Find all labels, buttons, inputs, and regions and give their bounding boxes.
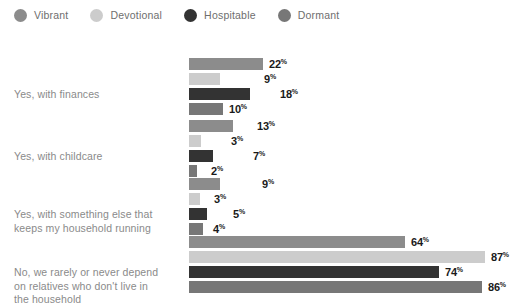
bar-value-label: 86% — [488, 281, 506, 294]
bar-value-label: 9% — [264, 73, 276, 86]
legend-item-label: Dormant — [298, 9, 340, 21]
bar-value-label: 74% — [445, 266, 463, 279]
circle-swatch-icon — [278, 9, 291, 22]
percent-sign: % — [292, 88, 298, 95]
bar-hospitable[interactable] — [189, 88, 250, 100]
percent-sign: % — [220, 193, 226, 200]
percent-sign: % — [268, 178, 274, 185]
percent-sign: % — [259, 150, 265, 157]
percent-sign: % — [217, 165, 223, 172]
bar-dormant[interactable] — [189, 165, 197, 177]
bar-value-label: 5% — [233, 208, 245, 221]
percent-sign: % — [269, 120, 275, 127]
category-label: Yes, with something else thatkeeps my ho… — [14, 208, 184, 235]
bar-hospitable[interactable] — [189, 150, 213, 162]
percent-sign: % — [237, 135, 243, 142]
bar-devotional[interactable] — [189, 251, 485, 263]
percent-sign: % — [457, 266, 463, 273]
bar-value-label: 87% — [491, 251, 509, 264]
bar-value-number: 10 — [229, 103, 241, 115]
bar-devotional[interactable] — [189, 135, 201, 147]
bar-value-label: 2% — [211, 165, 223, 178]
percent-sign: % — [270, 73, 276, 80]
circle-swatch-icon — [184, 9, 197, 22]
bar-hospitable[interactable] — [189, 208, 207, 220]
bar-value-number: 18 — [280, 88, 292, 100]
bar-value-label: 7% — [253, 150, 265, 163]
category-label-line: Yes, with finances — [14, 88, 184, 102]
legend-item-vibrant[interactable]: Vibrant — [14, 9, 68, 22]
category-label-line: on relatives who don't live in — [14, 280, 184, 294]
category-label: Yes, with childcare — [14, 150, 184, 164]
bar-dormant[interactable] — [189, 281, 482, 293]
circle-swatch-icon — [14, 9, 27, 22]
bar-value-label: 3% — [214, 193, 226, 206]
bar-value-number: 64 — [411, 236, 423, 248]
bar-value-label: 64% — [411, 236, 429, 249]
bar-devotional[interactable] — [189, 193, 200, 205]
bar-vibrant[interactable] — [189, 178, 220, 190]
bar-value-number: 86 — [488, 281, 500, 293]
legend-item-dormant[interactable]: Dormant — [278, 9, 340, 22]
percent-sign: % — [219, 223, 225, 230]
bar-dormant[interactable] — [189, 223, 203, 235]
legend-item-hospitable[interactable]: Hospitable — [184, 9, 256, 22]
chart-plot-area: Yes, with finances22%9%18%10%Yes, with c… — [0, 30, 521, 304]
legend-item-label: Hospitable — [204, 9, 256, 21]
percent-sign: % — [281, 58, 287, 65]
bar-value-label: 3% — [231, 135, 243, 148]
bar-vibrant[interactable] — [189, 58, 263, 70]
bar-value-number: 74 — [445, 266, 457, 278]
bar-value-label: 18% — [280, 88, 298, 101]
category-label: No, we rarely or never dependon relative… — [14, 266, 184, 304]
bar-devotional[interactable] — [189, 73, 220, 85]
bar-value-label: 4% — [213, 223, 225, 236]
bar-value-label: 22% — [269, 58, 287, 71]
category-label: Yes, with finances — [14, 88, 184, 102]
circle-swatch-icon — [90, 9, 103, 22]
chart-legend: VibrantDevotionalHospitableDormant — [14, 4, 361, 26]
legend-item-label: Vibrant — [34, 9, 68, 21]
category-label-line: Yes, with something else that — [14, 208, 184, 222]
percent-sign: % — [500, 281, 506, 288]
bar-vibrant[interactable] — [189, 120, 233, 132]
bar-value-label: 13% — [257, 120, 275, 133]
bar-dormant[interactable] — [189, 103, 223, 115]
bar-value-number: 87 — [491, 251, 503, 263]
bar-hospitable[interactable] — [189, 266, 439, 278]
bar-value-label: 9% — [262, 178, 274, 191]
bar-vibrant[interactable] — [189, 236, 405, 248]
category-label-line: keeps my household running — [14, 222, 184, 236]
bar-value-label: 10% — [229, 103, 247, 116]
category-label-line: No, we rarely or never depend — [14, 266, 184, 280]
category-label-line: the household — [14, 293, 184, 304]
survey-bar-chart: VibrantDevotionalHospitableDormant Yes, … — [0, 0, 521, 304]
legend-item-label: Devotional — [110, 9, 162, 21]
percent-sign: % — [239, 208, 245, 215]
category-label-line: Yes, with childcare — [14, 150, 184, 164]
percent-sign: % — [241, 103, 247, 110]
percent-sign: % — [503, 251, 509, 258]
percent-sign: % — [423, 236, 429, 243]
bar-value-number: 22 — [269, 58, 281, 70]
legend-item-devotional[interactable]: Devotional — [90, 9, 162, 22]
bar-value-number: 13 — [257, 120, 269, 132]
